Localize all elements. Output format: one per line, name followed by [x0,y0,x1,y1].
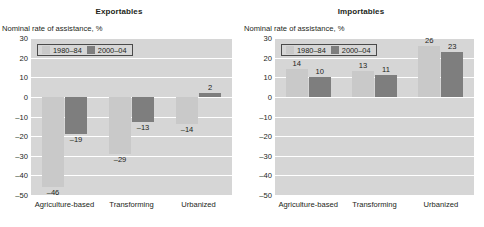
bar [42,97,64,187]
bar-value-label: 23 [448,42,456,51]
legend-label: 2000–04 [342,46,371,55]
bar [352,71,374,97]
legend-label: 1980–84 [297,46,326,55]
y-axis-label: Nominal rate of assistance, % [244,24,344,33]
bar [286,69,308,96]
figure-root: Exportables Nominal rate of assistance, … [0,0,484,227]
bar-value-label: 11 [382,65,390,74]
x-axis-category-label: Agriculture-based [35,200,95,209]
legend-item: 1980–84 [286,46,326,55]
panel-importables: Importables Nominal rate of assistance, … [242,0,480,227]
panel-title: Exportables [0,7,238,16]
bar-value-label: 13 [359,61,367,70]
gridline [31,195,232,196]
bar [418,46,440,97]
bar [199,93,221,97]
legend-label: 1980–84 [53,46,82,55]
y-axis-tick-label: –50 [0,191,28,200]
bar-value-label: –13 [137,123,150,132]
bar-value-label: –19 [70,135,83,144]
bar [441,52,463,97]
bar [309,77,331,97]
panel-title: Importables [242,7,480,16]
legend: 1980–84 2000–04 [281,44,377,56]
y-axis-tick-label: –50 [242,191,272,200]
bar-value-label: –46 [47,188,60,197]
x-axis-category-label: Urbanized [424,200,459,209]
gridline [31,38,232,39]
plot-area: 3020100–10–20–30–40–50141013112623 [275,38,474,195]
y-axis-tick-label: 10 [0,73,28,82]
plot-area: 3020100–10–20–30–40–50–46–19–29–13–142 [31,38,232,195]
y-axis-tick-label: –30 [0,151,28,160]
x-axis-category-label: Transforming [109,200,153,209]
y-axis-tick-label: –10 [242,112,272,121]
bar-value-label: –29 [114,155,127,164]
legend-swatch-icon [42,46,50,54]
y-axis-tick-label: –20 [0,132,28,141]
legend: 1980–84 2000–04 [37,44,133,56]
y-axis-tick-label: 20 [242,53,272,62]
bar-value-label: 10 [315,67,323,76]
gridline [31,58,232,59]
bar-value-label: –14 [181,125,194,134]
y-axis-tick-label: 30 [242,34,272,43]
panel-exportables: Exportables Nominal rate of assistance, … [0,0,238,227]
y-axis-label: Nominal rate of assistance, % [2,24,102,33]
legend-swatch-icon [286,46,294,54]
gridline [275,136,474,137]
y-axis-tick-label: 10 [242,73,272,82]
bar-value-label: 14 [292,59,300,68]
y-axis-tick-label: –40 [0,171,28,180]
bar-value-label: 26 [425,36,433,45]
bar [375,75,397,97]
gridline [275,175,474,176]
legend-item: 2000–04 [331,46,371,55]
gridline [275,117,474,118]
legend-label: 2000–04 [98,46,127,55]
y-axis-tick-label: 30 [0,34,28,43]
y-axis-tick-label: 0 [242,92,272,101]
x-axis-category-label: Transforming [352,200,396,209]
bar [109,97,131,154]
gridline [275,97,474,98]
x-axis-category-label: Agriculture-based [278,200,338,209]
y-axis-tick-label: –40 [242,171,272,180]
gridline [275,195,474,196]
gridline [275,38,474,39]
gridline [31,77,232,78]
legend-item: 2000–04 [87,46,127,55]
legend-swatch-icon [87,46,95,54]
y-axis-tick-label: 0 [0,92,28,101]
x-axis-category-label: Urbanized [181,200,216,209]
bar [132,97,154,123]
y-axis-tick-label: –20 [242,132,272,141]
gridline [275,156,474,157]
bar-value-label: 2 [208,83,212,92]
y-axis-tick-label: 20 [0,53,28,62]
bar [176,97,198,124]
y-axis-tick-label: –30 [242,151,272,160]
y-axis-tick-label: –10 [0,112,28,121]
legend-item: 1980–84 [42,46,82,55]
legend-swatch-icon [331,46,339,54]
bar [65,97,87,134]
